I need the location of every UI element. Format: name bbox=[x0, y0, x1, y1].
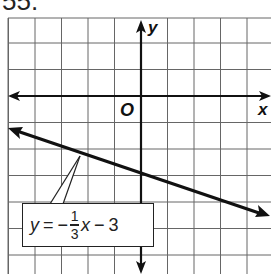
eq-equals: = bbox=[43, 215, 54, 236]
eq-negative: − bbox=[58, 215, 69, 236]
eq-lhs: y bbox=[30, 215, 39, 236]
eq-denominator: 3 bbox=[71, 227, 79, 241]
x-axis bbox=[8, 91, 271, 101]
y-axis-label: y bbox=[148, 18, 157, 38]
eq-var: x bbox=[81, 215, 90, 236]
eq-fraction: 1 3 bbox=[70, 209, 79, 240]
callout-pointer bbox=[50, 156, 80, 204]
x-axis-label: x bbox=[258, 100, 267, 120]
eq-operator: − bbox=[94, 215, 105, 236]
eq-numerator: 1 bbox=[71, 209, 79, 223]
graph-figure: 55. y x O y = − 1 bbox=[0, 0, 271, 274]
equation-label: y = − 1 3 x − 3 bbox=[22, 203, 154, 247]
eq-constant: 3 bbox=[109, 215, 119, 236]
origin-label: O bbox=[120, 100, 134, 121]
